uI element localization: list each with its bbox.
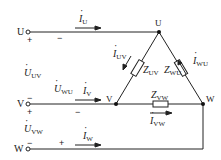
voltage-label-uwu: UWU — [54, 84, 73, 97]
node-v — [114, 102, 118, 106]
node-label-v: V — [106, 94, 113, 104]
sign-minus-vline: − — [75, 108, 80, 117]
impedance-label-zwu: ZWU — [164, 65, 181, 78]
node-w — [201, 102, 205, 106]
voltage-label-uvw: UVW — [24, 124, 43, 137]
sign-plus-w: + — [59, 139, 64, 148]
sign-minus-w: − — [27, 139, 32, 148]
sign-minus-u: − — [57, 34, 62, 43]
current-label-ivw: IVW — [150, 116, 165, 129]
node-label-w: W — [206, 94, 215, 104]
current-label-iu: IU — [79, 14, 87, 27]
node-u — [157, 30, 161, 34]
terminal-label-w: W — [14, 144, 23, 154]
sign-plus-u: + — [27, 36, 32, 45]
current-label-iuv: IUV — [113, 49, 126, 62]
current-label-iv: IV — [83, 86, 91, 99]
terminal-u — [26, 30, 30, 34]
current-label-iwu: IWU — [193, 56, 208, 69]
terminal-label-v: V — [17, 99, 24, 109]
voltage-label-uuv: UUV — [24, 68, 41, 81]
impedance-label-zuv: ZUV — [143, 65, 159, 78]
sign-minus-v: − — [27, 94, 32, 103]
current-label-iw: IW — [83, 131, 93, 144]
node-label-u: U — [155, 18, 162, 28]
sign-plus-v: + — [27, 108, 32, 117]
impedance-label-zvw: ZVW — [151, 90, 168, 103]
terminal-label-u: U — [17, 27, 24, 37]
